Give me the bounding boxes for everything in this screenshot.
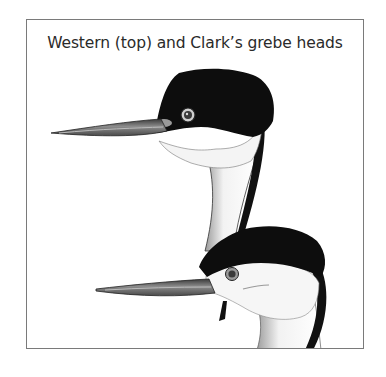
western-grebe-head bbox=[51, 69, 274, 251]
figure-frame: Western (top) and Clark’s grebe heads bbox=[26, 19, 364, 349]
grebe-illustration bbox=[26, 19, 364, 349]
